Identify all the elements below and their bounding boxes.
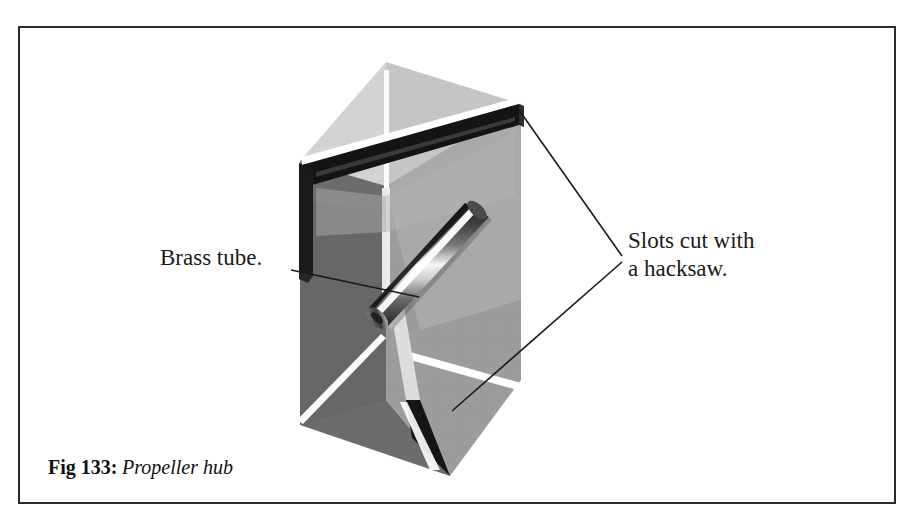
- leader-slot-upper: [519, 110, 622, 256]
- slots-label-line2: a hacksaw.: [628, 256, 727, 281]
- upper-slot-left-return: [299, 163, 313, 276]
- figure-caption-description: Propeller hub: [121, 456, 233, 479]
- upper-cut-face: [316, 188, 386, 236]
- propeller-hub-illustration: Brass tube. Slots cut with a hacksaw. Fi…: [0, 0, 918, 524]
- figure-caption-label: Fig 133:: [48, 456, 117, 479]
- hub-center-ridge-highlight: [384, 70, 389, 188]
- brass-tube-label: Brass tube.: [160, 245, 262, 270]
- slots-label-line1: Slots cut with: [628, 228, 755, 253]
- figure-container: Brass tube. Slots cut with a hacksaw. Fi…: [0, 0, 918, 524]
